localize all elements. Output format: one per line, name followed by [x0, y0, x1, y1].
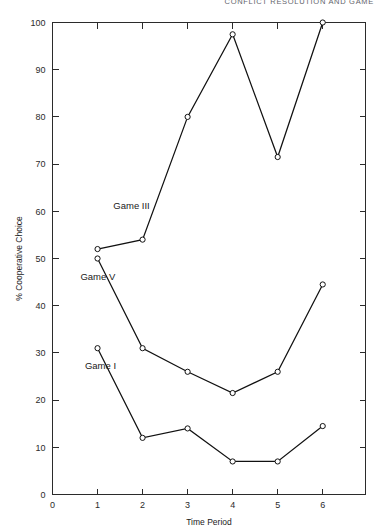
series-label: Game I: [85, 360, 116, 371]
y-tick-label: 90: [35, 65, 45, 75]
y-tick-label: 60: [35, 207, 45, 217]
series-line: [98, 348, 323, 461]
data-point-marker: [275, 459, 280, 464]
x-tick-label: 4: [230, 500, 235, 510]
y-tick-label: 10: [35, 443, 45, 453]
data-point-marker: [140, 435, 145, 440]
data-point-marker: [230, 390, 235, 395]
y-tick-label: 80: [35, 112, 45, 122]
x-tick-label: 0: [50, 500, 55, 510]
data-point-marker: [185, 369, 190, 374]
figure-container: CONFLICT RESOLUTION AND GAME 01020304050…: [0, 0, 382, 531]
x-tick-label: 5: [275, 500, 280, 510]
y-tick-label: 40: [35, 301, 45, 311]
data-point-marker: [320, 20, 325, 25]
line-chart: 01020304050607080901000123456 Game IIIGa…: [0, 0, 382, 531]
data-point-marker: [320, 282, 325, 287]
data-point-marker: [140, 346, 145, 351]
x-axis-title: Time Period: [186, 517, 232, 527]
series-label: Game III: [113, 200, 149, 211]
y-tick-label: 0: [40, 490, 45, 500]
series-line: [98, 23, 323, 250]
data-point-marker: [95, 246, 100, 251]
y-axis-title: % Cooperative Choice: [14, 216, 24, 301]
chart-series-labels: Game IIIGame VGame I: [80, 200, 149, 371]
data-series: [95, 346, 325, 464]
data-point-marker: [185, 114, 190, 119]
y-tick-label: 100: [30, 18, 45, 28]
data-point-marker: [275, 369, 280, 374]
data-point-marker: [230, 459, 235, 464]
y-tick-label: 50: [35, 254, 45, 264]
data-point-marker: [185, 426, 190, 431]
data-point-marker: [140, 237, 145, 242]
series-label: Game V: [80, 271, 116, 282]
data-series: [95, 256, 325, 396]
data-point-marker: [95, 346, 100, 351]
x-tick-label: 3: [185, 500, 190, 510]
y-tick-label: 70: [35, 159, 45, 169]
y-tick-label: 30: [35, 348, 45, 358]
data-point-marker: [230, 32, 235, 37]
data-point-marker: [320, 423, 325, 428]
chart-series-layer: [95, 20, 325, 464]
x-tick-label: 6: [320, 500, 325, 510]
y-tick-label: 20: [35, 395, 45, 405]
data-point-marker: [95, 256, 100, 261]
x-tick-label: 1: [95, 500, 100, 510]
chart-axis-titles: Time Period% Cooperative Choice: [14, 216, 232, 527]
x-tick-label: 2: [140, 500, 145, 510]
series-line: [98, 259, 323, 394]
data-point-marker: [275, 154, 280, 159]
data-series: [95, 20, 325, 252]
